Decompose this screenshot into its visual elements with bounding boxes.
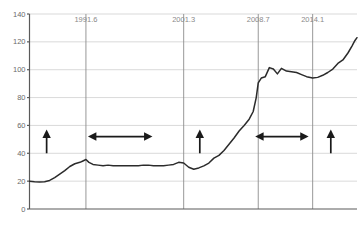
y-tick-label: 0 [21,205,25,214]
x-marker-label: 2008.7 [247,15,270,24]
y-axis-tick-labels: 020406080100120140 [13,10,30,214]
y-tick-label: 120 [13,37,26,46]
horizontal-gridlines [30,14,358,181]
phase-2-flat-head-left [88,132,96,140]
vertical-marker-lines [86,14,313,209]
data-series-line [30,38,358,182]
phase-4-flat-head-left [255,132,263,140]
y-tick-label: 140 [13,10,26,19]
x-marker-label: 2014.1 [301,15,324,24]
line-chart: 020406080100120140 1991.62001.32008.7201… [0,0,363,226]
y-tick-label: 80 [17,93,25,102]
chart-container: 020406080100120140 1991.62001.32008.7201… [0,0,363,226]
phase-1-rise-head [42,130,50,138]
phase-2-flat-head-right [144,132,152,140]
phase-3-rise-head [196,130,204,138]
y-tick-label: 100 [13,65,26,74]
phase-5-rise-head [327,130,335,138]
x-marker-label: 2001.3 [172,15,195,24]
y-tick-label: 20 [17,177,25,186]
x-marker-label: 1991.6 [74,15,97,24]
x-axis-marker-labels: 1991.62001.32008.72014.1 [74,15,324,24]
y-tick-label: 60 [17,121,25,130]
y-tick-label: 40 [17,149,25,158]
phase-4-flat-head-right [300,132,308,140]
